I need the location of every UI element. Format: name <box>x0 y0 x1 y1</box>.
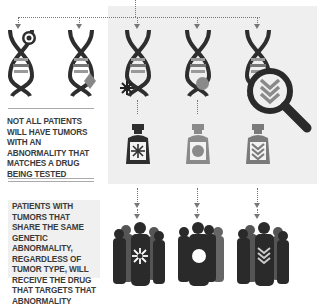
patient-group-circle <box>176 222 226 288</box>
patient-group-asterisk <box>112 222 166 288</box>
divider <box>8 178 94 179</box>
note-matched-box: Patients with tumors that share the same… <box>8 200 100 278</box>
arrow-down-icon <box>134 214 140 219</box>
connector-line <box>137 188 138 204</box>
connector-line <box>197 100 198 114</box>
connector-line <box>137 100 138 114</box>
arrow-down-icon <box>254 214 260 219</box>
arrow-down-icon <box>194 214 200 219</box>
circle-icon <box>196 77 209 90</box>
arrow-down-icon <box>254 203 260 208</box>
target-icon <box>21 30 37 46</box>
divider <box>8 108 94 109</box>
arrow-down-icon <box>134 203 140 208</box>
diamond-icon <box>84 73 96 89</box>
patient-group-chevron <box>236 222 290 288</box>
divider <box>8 181 94 182</box>
connector-line <box>257 188 258 204</box>
arrow-down-icon <box>194 203 200 208</box>
connector-line <box>197 188 198 204</box>
note-matched: Patients with tumors that share the same… <box>12 202 96 305</box>
drug-bottle-asterisk <box>124 124 152 166</box>
note-unmatched: Not all patients will have tumors with a… <box>7 117 99 180</box>
drug-bottle-circle <box>184 124 212 166</box>
connector-line <box>135 0 136 17</box>
drug-bottle-chevron <box>244 124 272 166</box>
asterisk-icon <box>120 81 134 95</box>
